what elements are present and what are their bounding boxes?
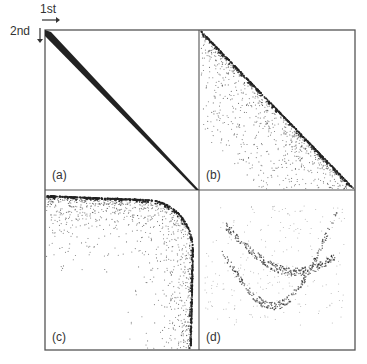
panel-a-diagonal	[45, 30, 199, 190]
panel-a-label: (a)	[52, 168, 67, 182]
panel-d-label: (d)	[206, 330, 221, 344]
scatter-grid	[0, 0, 367, 364]
panel-b-label: (b)	[206, 168, 221, 182]
panel-c-label: (c)	[52, 330, 66, 344]
